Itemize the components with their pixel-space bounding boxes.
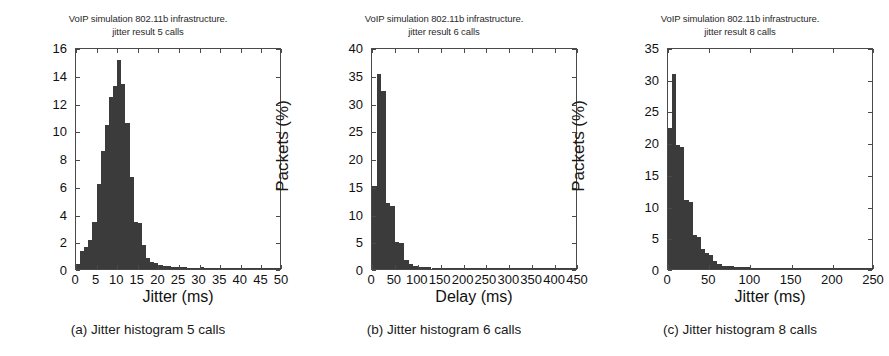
x-tick-label: 250 bbox=[862, 272, 884, 287]
axis-tick bbox=[117, 49, 118, 53]
y-tick-label: 4 bbox=[60, 207, 67, 222]
axis-tick bbox=[158, 265, 159, 269]
chart-title-line2: jitter result 5 calls bbox=[33, 25, 263, 38]
axis-tick bbox=[76, 105, 80, 106]
axis-tick bbox=[572, 270, 576, 271]
y-tick-label: 10 bbox=[349, 207, 363, 222]
y-tick-label: 25 bbox=[349, 124, 363, 139]
axis-tick bbox=[418, 265, 419, 269]
axis-tick bbox=[750, 265, 751, 269]
x-tick-label: 5 bbox=[92, 272, 99, 287]
axis-tick bbox=[668, 49, 672, 50]
y-tick-label: 16 bbox=[53, 41, 67, 56]
y-tick-label: 35 bbox=[349, 68, 363, 83]
axes-box-b bbox=[371, 48, 577, 270]
y-tick-label: 15 bbox=[645, 167, 659, 182]
panel-caption-a: (a) Jitter histogram 5 calls bbox=[0, 322, 296, 337]
axis-tick bbox=[395, 265, 396, 269]
axis-tick bbox=[200, 265, 201, 269]
axis-tick bbox=[833, 49, 834, 53]
x-tick-label: 50 bbox=[701, 272, 715, 287]
x-tick-label: 400 bbox=[543, 272, 565, 287]
chart-title-line2: jitter result 8 calls bbox=[625, 25, 855, 38]
axis-tick bbox=[868, 112, 872, 113]
axis-tick bbox=[792, 265, 793, 269]
axis-tick bbox=[509, 49, 510, 53]
axis-tick bbox=[76, 270, 80, 271]
x-tick-label: 150 bbox=[780, 272, 802, 287]
y-tick-label: 5 bbox=[356, 235, 363, 250]
axis-tick bbox=[868, 270, 872, 271]
axis-tick bbox=[372, 243, 376, 244]
axis-tick bbox=[668, 81, 672, 82]
axis-tick bbox=[372, 49, 376, 50]
axis-tick bbox=[868, 239, 872, 240]
y-tick-label: 6 bbox=[60, 179, 67, 194]
axis-tick bbox=[261, 49, 262, 53]
axis-tick bbox=[486, 49, 487, 53]
x-tick-labels-b: 050100150200250300350400450 bbox=[371, 272, 577, 288]
y-tick-label: 0 bbox=[60, 263, 67, 278]
axis-tick bbox=[138, 265, 139, 269]
axis-tick bbox=[441, 265, 442, 269]
axis-tick bbox=[117, 265, 118, 269]
axis-tick bbox=[76, 77, 80, 78]
x-tick-label: 0 bbox=[663, 272, 670, 287]
histogram-bars-c bbox=[668, 49, 872, 269]
y-tick-labels-a: 0246810121416 bbox=[13, 48, 71, 270]
x-tick-label: 50 bbox=[274, 272, 288, 287]
axis-tick bbox=[532, 265, 533, 269]
axis-tick bbox=[372, 160, 376, 161]
axis-tick bbox=[241, 265, 242, 269]
axis-tick bbox=[572, 77, 576, 78]
axis-tick bbox=[418, 49, 419, 53]
chart-title-line1: VoIP simulation 802.11b infrastructure. bbox=[69, 13, 227, 24]
y-tick-label: 30 bbox=[645, 72, 659, 87]
y-tick-label: 8 bbox=[60, 152, 67, 167]
y-tick-label: 2 bbox=[60, 235, 67, 250]
axis-tick bbox=[709, 49, 710, 53]
y-tick-label: 15 bbox=[349, 179, 363, 194]
x-tick-label: 45 bbox=[253, 272, 267, 287]
axis-tick bbox=[668, 239, 672, 240]
axis-tick bbox=[668, 208, 672, 209]
axis-tick bbox=[868, 208, 872, 209]
y-tick-label: 20 bbox=[349, 152, 363, 167]
axis-tick bbox=[76, 265, 77, 269]
axis-tick bbox=[158, 49, 159, 53]
chart-title-line2: jitter result 6 calls bbox=[329, 25, 559, 38]
axis-tick bbox=[577, 265, 578, 269]
axis-tick bbox=[464, 49, 465, 53]
axis-tick bbox=[281, 49, 282, 53]
chart-title-line1: VoIP simulation 802.11b infrastructure. bbox=[365, 13, 523, 24]
x-axis-label-b: Delay (ms) bbox=[371, 288, 577, 306]
axis-tick bbox=[76, 132, 80, 133]
axis-tick bbox=[76, 216, 80, 217]
axis-tick bbox=[220, 49, 221, 53]
y-tick-label: 25 bbox=[645, 104, 659, 119]
x-tick-label: 300 bbox=[497, 272, 519, 287]
axis-tick bbox=[372, 265, 373, 269]
y-tick-label: 14 bbox=[53, 68, 67, 83]
axis-tick bbox=[464, 265, 465, 269]
axis-tick bbox=[220, 265, 221, 269]
axis-tick bbox=[833, 265, 834, 269]
axis-tick bbox=[792, 49, 793, 53]
x-tick-label: 15 bbox=[130, 272, 144, 287]
x-tick-label: 50 bbox=[387, 272, 401, 287]
chart-title-c: VoIP simulation 802.11b infrastructure. … bbox=[625, 12, 855, 38]
axis-tick bbox=[873, 265, 874, 269]
axis-tick bbox=[709, 265, 710, 269]
axis-tick bbox=[372, 132, 376, 133]
axis-tick bbox=[441, 49, 442, 53]
x-tick-label: 350 bbox=[520, 272, 542, 287]
y-tick-label: 0 bbox=[652, 263, 659, 278]
y-tick-label: 10 bbox=[645, 199, 659, 214]
axes-box-c bbox=[667, 48, 873, 270]
y-tick-label: 10 bbox=[53, 124, 67, 139]
axis-tick bbox=[372, 105, 376, 106]
axis-tick bbox=[555, 265, 556, 269]
axis-tick bbox=[668, 265, 669, 269]
chart-title-b: VoIP simulation 802.11b infrastructure. … bbox=[329, 12, 559, 38]
x-tick-label: 20 bbox=[150, 272, 164, 287]
